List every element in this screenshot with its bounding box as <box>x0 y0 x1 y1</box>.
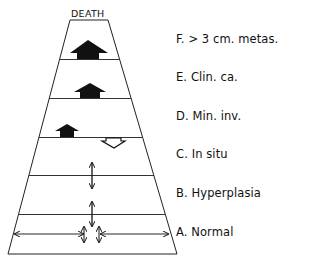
hollow-down-arrow-icon <box>102 138 125 148</box>
stage-label-b: B. Hyperplasia <box>176 188 261 200</box>
stage-label-d: D. Min. inv. <box>176 111 241 123</box>
medium-up-arrow-icon <box>74 83 106 98</box>
stage-label-a: A. Normal <box>176 227 234 239</box>
stage-label-e: E. Clin. ca. <box>176 72 238 84</box>
death-label: DEATH <box>71 9 105 19</box>
stage-label-f: F. > 3 cm. metas. <box>176 34 278 46</box>
stage-label-c: C. In situ <box>176 149 228 161</box>
small-up-arrow-icon <box>55 124 79 137</box>
large-up-arrow-icon <box>70 40 108 59</box>
